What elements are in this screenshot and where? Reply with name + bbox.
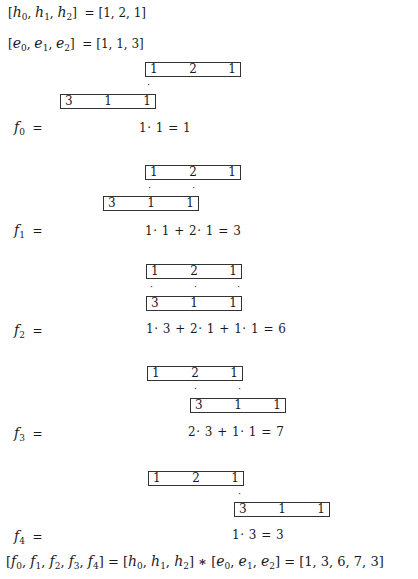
overlap-dot: · (237, 284, 240, 290)
overlap-dot: · (147, 82, 150, 88)
h-box: 121 (145, 62, 241, 77)
e-reversed-box: 311 (103, 196, 199, 211)
h-symbol: h (13, 4, 22, 20)
h-values: [1, 2, 1] (98, 6, 146, 20)
e-reversed-box: 311 (60, 94, 156, 109)
e-reversed-box: 311 (146, 296, 242, 311)
overlap-dot: · (192, 185, 195, 191)
h-box: 121 (145, 165, 241, 180)
f0-label: f0 = (14, 119, 43, 137)
e-reversed-box: 311 (234, 502, 330, 517)
f4-expression: 1· 3 = 3 (232, 528, 284, 542)
overlap-dot: · (238, 386, 241, 392)
h-box: 121 (148, 471, 244, 486)
overlap-dot: · (194, 284, 197, 290)
overlap-dot: · (194, 386, 197, 392)
convolution-operator-icon: ∗ (198, 554, 207, 569)
result-values: [1, 3, 6, 7, 3] (299, 554, 384, 569)
f3-label: f3 = (14, 425, 43, 443)
f1-label: f1 = (14, 222, 43, 240)
f2-label: f2 = (14, 322, 43, 340)
f0-expression: 1· 1 = 1 (139, 121, 191, 135)
f3-expression: 2· 3 + 1· 1 = 7 (188, 425, 284, 439)
h-box: 121 (146, 264, 242, 279)
convolution-result: [f0, f1, f2, f3, f4] = [h0, h1, h2] ∗ [e… (6, 553, 384, 571)
f2-expression: 1· 3 + 2· 1 + 1· 1 = 6 (146, 322, 286, 336)
overlap-dot: · (148, 185, 151, 191)
h-definition: [h0, h1, h2] = [1, 2, 1] (8, 4, 146, 22)
overlap-dot: · (238, 491, 241, 497)
h-box: 121 (147, 366, 243, 381)
overlap-dot: · (150, 284, 153, 290)
f4-label: f4 = (14, 528, 43, 546)
e-definition: [e0, e1, e2] = [1, 1, 3] (8, 35, 144, 53)
f1-expression: 1· 1 + 2· 1 = 3 (145, 224, 241, 238)
e-values: [1, 1, 3] (96, 37, 144, 51)
e-reversed-box: 311 (190, 398, 286, 413)
e-symbol: e (13, 35, 21, 51)
